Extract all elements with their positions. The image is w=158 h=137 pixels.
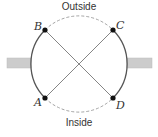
label-d: D: [115, 99, 125, 112]
point-a: [42, 95, 47, 100]
point-d: [110, 95, 115, 100]
label-inside: Inside: [66, 117, 93, 128]
circle-crossing-diagram: B C A D Outside Inside: [0, 0, 158, 137]
label-outside: Outside: [62, 1, 97, 12]
label-b: B: [33, 20, 42, 33]
label-a: A: [33, 96, 42, 109]
point-c: [110, 27, 115, 32]
left-solid-arc: [31, 30, 45, 98]
right-bar: [127, 58, 152, 68]
top-dashed-arc: [45, 16, 113, 30]
bottom-dashed-arc: [45, 98, 113, 112]
point-b: [42, 27, 47, 32]
left-bar: [7, 58, 31, 68]
right-solid-arc: [113, 30, 127, 98]
label-c: C: [116, 19, 125, 32]
